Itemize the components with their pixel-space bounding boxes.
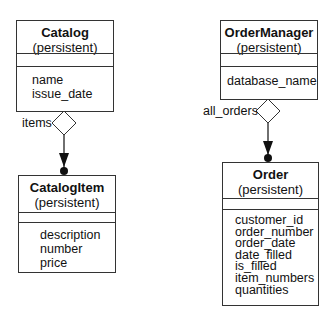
attribute: issue_date <box>32 87 92 101</box>
divider <box>19 222 115 223</box>
class-header: CatalogItem (persistent) <box>19 176 115 210</box>
divider <box>17 66 113 67</box>
class-name: CatalogItem <box>19 180 115 195</box>
class-header: OrderManager (persistent) <box>221 21 317 55</box>
divider <box>17 53 113 54</box>
filled-dot-icon <box>264 154 272 162</box>
divider <box>223 209 318 210</box>
arrowhead-icon <box>263 141 273 155</box>
attribute: number <box>40 242 100 256</box>
aggregation-diamond-icon <box>52 111 76 135</box>
class-order[interactable]: Order (persistent) customer_id order_num… <box>222 162 319 306</box>
attribute-list: customer_id order_number order_date date… <box>235 215 314 296</box>
aggregation-diamond-icon <box>256 99 280 123</box>
attribute: name <box>32 73 92 87</box>
class-header: Catalog (persistent) <box>17 21 113 55</box>
attribute: database_name <box>227 74 317 88</box>
divider <box>19 212 115 213</box>
class-name: Order <box>223 167 318 182</box>
arrowhead-icon <box>59 153 69 167</box>
attribute-list: database_name <box>227 74 317 88</box>
divider <box>221 53 317 54</box>
class-name: OrderManager <box>221 25 317 40</box>
class-catalog-item[interactable]: CatalogItem (persistent) description num… <box>18 175 116 273</box>
role-label-items: items <box>22 116 52 130</box>
attribute-list: name issue_date <box>32 73 92 101</box>
divider <box>223 198 318 199</box>
divider <box>221 66 317 67</box>
role-label-all-orders: all_orders <box>203 104 258 118</box>
class-stereotype: (persistent) <box>223 182 318 197</box>
attribute-list: description number price <box>40 228 100 270</box>
class-order-manager[interactable]: OrderManager (persistent) database_name <box>220 20 318 100</box>
attribute: quantities <box>235 285 314 297</box>
attribute: price <box>40 256 100 270</box>
class-header: Order (persistent) <box>223 163 318 197</box>
class-name: Catalog <box>17 25 113 40</box>
attribute: description <box>40 228 100 242</box>
class-catalog[interactable]: Catalog (persistent) name issue_date <box>16 20 114 112</box>
filled-dot-icon <box>60 167 68 175</box>
class-stereotype: (persistent) <box>19 195 115 210</box>
